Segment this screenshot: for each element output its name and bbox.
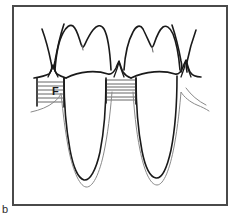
furcation-label: F xyxy=(52,86,59,97)
dental-line-drawing xyxy=(0,0,236,224)
figure-panel: F b xyxy=(0,0,236,224)
panel-letter-label: b xyxy=(2,204,8,215)
